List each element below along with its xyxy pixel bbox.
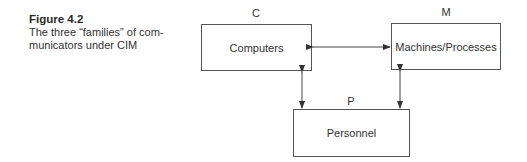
connector-arrows [0, 0, 527, 162]
